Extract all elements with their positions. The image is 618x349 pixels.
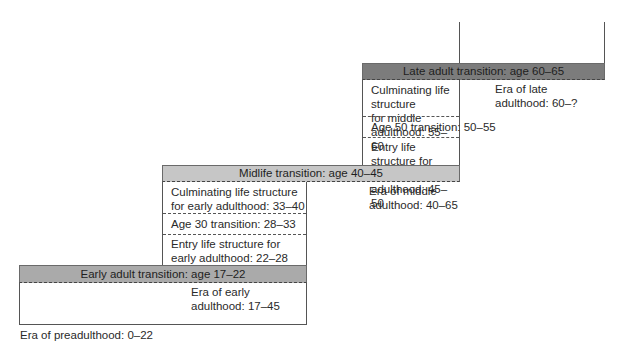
midlife-transition-bar-top: Midlife transition: age 40–45 <box>162 165 460 182</box>
era-late-adulthood-label: Era of late adulthood: 60–? <box>495 82 578 110</box>
early-adulthood-cells: Culminating life structure for early adu… <box>162 182 307 265</box>
middle-adulthood-cells: Culminating life structure for middle ad… <box>362 80 460 166</box>
early-adult-transition-bar-top: Early adult transition: age 17–22 <box>19 265 307 283</box>
era-middle-adulthood-label: Era of middle adulthood: 40–65 <box>369 184 458 212</box>
period-entry-middle: Entry life structure for middle adulthoo… <box>363 138 459 168</box>
late-adult-transition-bar: Late adult transition: age 60–65 <box>362 63 605 80</box>
era-early-adulthood-label: Era of early adulthood: 17–45 <box>191 285 280 313</box>
period-culminating-middle-cell: Culminating life structure for middle ad… <box>363 81 459 115</box>
era-preadulthood-label: Era of preadulthood: 0–22 <box>20 328 153 342</box>
period-age-30-transition-cell: Age 30 transition: 28–33 <box>163 215 306 235</box>
period-culminating-early-cell: Culminating life structure for early adu… <box>163 183 306 213</box>
divider <box>363 116 459 117</box>
period-age-50-transition: Age 50 transition: 50–55 <box>363 118 459 138</box>
period-entry-early-cell: Entry life structure for early adulthood… <box>163 235 306 265</box>
divider <box>163 213 306 214</box>
